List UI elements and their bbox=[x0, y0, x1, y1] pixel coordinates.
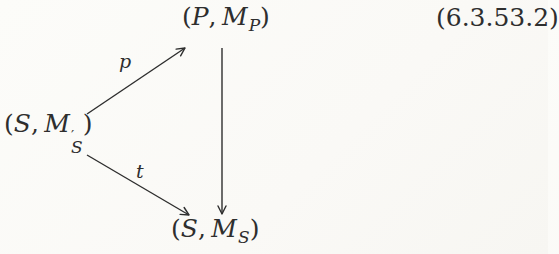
node-bottom-var1: S bbox=[181, 214, 198, 243]
node-bottom-var2: M bbox=[211, 214, 237, 243]
node-bottom: (S,MS) bbox=[171, 214, 259, 252]
node-left-subscript: S bbox=[71, 141, 83, 154]
node-top: (P,MP) bbox=[182, 2, 270, 40]
node-left-open-paren: ( bbox=[4, 109, 14, 138]
node-bottom-open-paren: ( bbox=[171, 214, 181, 243]
node-top-var2: M bbox=[222, 2, 248, 31]
node-left-prime-subscript-stack: ′S bbox=[71, 132, 83, 154]
node-left: (S,M′S) bbox=[4, 109, 92, 154]
node-top-close-paren: ) bbox=[260, 2, 270, 31]
equation-number: (6.3.53.2) bbox=[436, 3, 559, 33]
node-left-var2: M bbox=[44, 109, 70, 138]
node-top-open-paren: ( bbox=[182, 2, 192, 31]
arrow-p bbox=[87, 48, 185, 114]
arrow-t-label: t bbox=[136, 160, 144, 182]
node-top-subscript: P bbox=[249, 15, 260, 35]
node-left-var1: S bbox=[14, 109, 31, 138]
node-top-var1: P bbox=[192, 2, 209, 31]
node-bottom-comma: , bbox=[198, 214, 206, 243]
node-top-comma: , bbox=[209, 2, 217, 31]
arrow-p-label: p bbox=[119, 50, 131, 72]
node-bottom-subscript: S bbox=[238, 227, 250, 247]
node-left-close-paren: ) bbox=[83, 109, 93, 138]
node-bottom-close-paren: ) bbox=[250, 214, 260, 243]
node-left-comma: , bbox=[31, 109, 39, 138]
